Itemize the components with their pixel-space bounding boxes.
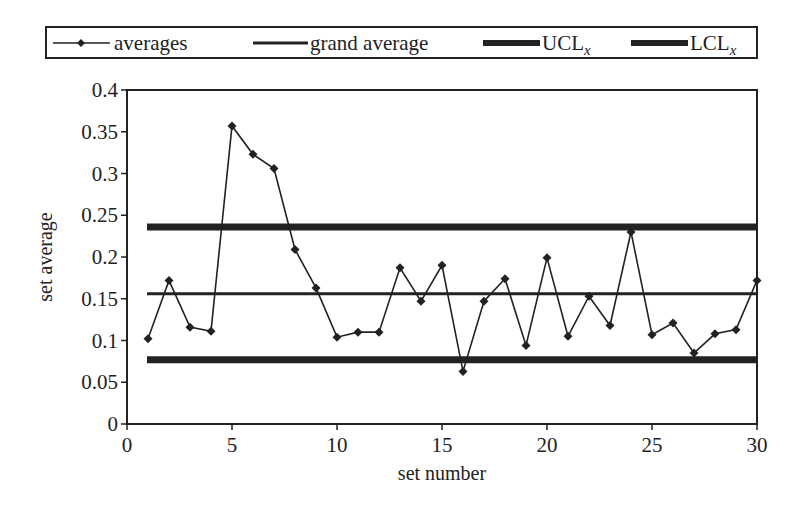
chart-canvas: averages grand average UCLx LCLx	[0, 0, 809, 510]
diamond-marker-icon	[438, 261, 447, 270]
y-tick-label: 0.4	[92, 78, 119, 102]
y-tick-label: 0.15	[81, 287, 118, 311]
y-axis-title: set average	[34, 212, 57, 302]
x-tick-label: 25	[642, 433, 663, 457]
diamond-marker-icon	[270, 164, 279, 173]
legend: averages grand average UCLx LCLx	[46, 27, 757, 58]
y-tick-label: 0	[108, 412, 119, 436]
diamond-marker-icon	[522, 341, 531, 350]
diamond-marker-icon	[564, 332, 573, 341]
diamond-marker-icon	[417, 297, 426, 306]
diamond-marker-icon	[753, 276, 762, 285]
x-axis: 051015202530	[122, 424, 768, 457]
y-tick-label: 0.35	[81, 120, 118, 144]
x-tick-label: 15	[432, 433, 453, 457]
diamond-marker-icon	[396, 263, 405, 272]
x-tick-label: 0	[122, 433, 133, 457]
y-tick-label: 0.2	[92, 245, 118, 269]
control-limit-lines	[147, 227, 757, 360]
legend-label-lcl: LCLx	[690, 31, 737, 58]
x-tick-label: 10	[327, 433, 348, 457]
control-chart: averages grand average UCLx LCLx	[0, 0, 809, 510]
y-axis: 00.050.10.150.20.250.30.350.4	[81, 78, 127, 436]
x-tick-label: 5	[227, 433, 238, 457]
y-tick-label: 0.3	[92, 162, 118, 186]
series-averages	[144, 121, 762, 375]
x-tick-label: 30	[747, 433, 768, 457]
diamond-marker-icon	[459, 367, 468, 376]
diamond-marker-icon	[144, 334, 153, 343]
diamond-marker-icon	[648, 330, 657, 339]
x-axis-title: set number	[398, 462, 487, 484]
diamond-marker-icon	[207, 327, 216, 336]
diamond-marker-icon	[732, 325, 741, 334]
diamond-marker-icon	[291, 245, 300, 254]
y-tick-label: 0.25	[81, 203, 118, 227]
legend-label-averages: averages	[114, 31, 187, 55]
diamond-marker-icon	[543, 253, 552, 262]
y-tick-label: 0.05	[81, 370, 118, 394]
y-tick-label: 0.1	[92, 329, 118, 353]
diamond-marker-icon	[333, 333, 342, 342]
diamond-marker-icon	[165, 276, 174, 285]
legend-label-grand-average: grand average	[310, 31, 428, 55]
plot-area	[127, 90, 757, 424]
legend-label-ucl: UCLx	[542, 31, 591, 58]
diamond-marker-icon	[375, 328, 384, 337]
diamond-marker-icon	[186, 323, 195, 332]
averages-line	[148, 126, 757, 371]
diamond-marker-icon	[354, 328, 363, 337]
x-tick-label: 20	[537, 433, 558, 457]
diamond-marker-icon	[312, 283, 321, 292]
